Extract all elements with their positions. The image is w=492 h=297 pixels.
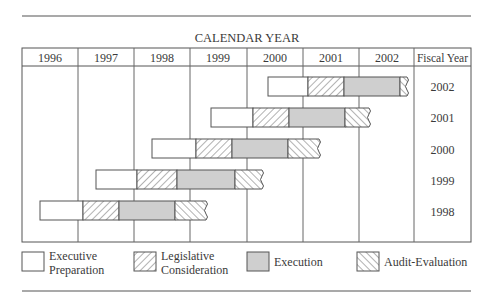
segment-legislative-consideration: [196, 139, 232, 158]
bar-fy2001: [211, 108, 371, 127]
segment-execution: [289, 108, 345, 127]
bar-fy1999: [96, 170, 264, 189]
segment-executive-preparation: [152, 139, 196, 158]
segment-legislative-consideration: [308, 77, 344, 96]
segment-legislative-consideration: [83, 201, 119, 220]
budget-cycle-diagram: CALENDAR YEAR 1996 1997 1998 1999 2000 2…: [0, 0, 492, 297]
segment-executive-preparation: [211, 108, 253, 127]
legend-swatch-white: [22, 252, 44, 271]
segment-execution: [344, 77, 400, 96]
bar-fy1998: [40, 201, 208, 220]
segment-execution: [177, 170, 235, 189]
year-header-1996: 1996: [38, 51, 62, 65]
fiscal-label-1999: 1999: [431, 174, 455, 188]
svg-text:Executive: Executive: [49, 249, 97, 263]
legend-swatch-back-hatch: [357, 252, 379, 271]
legend-swatch-gray: [247, 252, 269, 271]
bar-fy2000: [152, 139, 321, 158]
fiscal-label-2001: 2001: [431, 111, 455, 125]
segment-audit-evaluation: [345, 108, 371, 127]
legend-item-audit-evaluation: Audit-Evaluation: [357, 252, 467, 271]
year-header-2001: 2001: [319, 51, 343, 65]
fiscal-year-labels: 2002 2001 2000 1999 1998: [431, 80, 455, 219]
segment-audit-evaluation: [288, 139, 321, 158]
svg-text:Legislative: Legislative: [161, 249, 214, 263]
year-header-1997: 1997: [94, 51, 118, 65]
legend-swatch-forward-hatch: [134, 252, 156, 271]
fiscal-label-2002: 2002: [431, 80, 455, 94]
calendar-year-headers: 1996 1997 1998 1999 2000 2001 2002 Fisca…: [38, 51, 468, 65]
segment-execution: [119, 201, 175, 220]
fiscal-label-1998: 1998: [431, 205, 455, 219]
legend: Executive Preparation Legislative Consid…: [22, 249, 467, 277]
fiscal-year-header: Fiscal Year: [417, 52, 468, 64]
segment-legislative-consideration: [253, 108, 289, 127]
svg-text:Preparation: Preparation: [49, 263, 104, 277]
svg-text:Consideration: Consideration: [161, 263, 228, 277]
legend-item-execution: Execution: [247, 252, 323, 271]
segment-audit-evaluation: [235, 170, 264, 189]
segment-audit-evaluation: [175, 201, 208, 220]
segment-executive-preparation: [268, 77, 308, 96]
bar-fy2002: [268, 77, 409, 96]
fiscal-label-2000: 2000: [431, 143, 455, 157]
segment-executive-preparation: [96, 170, 137, 189]
segment-audit-evaluation: [400, 77, 409, 96]
svg-text:Audit-Evaluation: Audit-Evaluation: [384, 255, 467, 269]
legend-item-executive-preparation: Executive Preparation: [22, 249, 104, 277]
chart-title: CALENDAR YEAR: [195, 31, 300, 45]
segment-legislative-consideration: [137, 170, 177, 189]
year-header-2002: 2002: [375, 51, 399, 65]
year-header-2000: 2000: [263, 51, 287, 65]
legend-item-legislative-consideration: Legislative Consideration: [134, 249, 228, 277]
svg-text:Execution: Execution: [274, 255, 323, 269]
year-header-1999: 1999: [206, 51, 230, 65]
segment-executive-preparation: [40, 201, 83, 220]
segment-execution: [232, 139, 288, 158]
year-header-1998: 1998: [150, 51, 174, 65]
